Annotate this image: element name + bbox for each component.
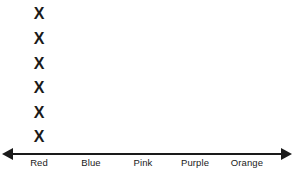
x-axis-tick-label: Purple: [181, 157, 209, 169]
axis-line: [12, 153, 282, 155]
data-point-mark: X: [31, 52, 47, 77]
dot-plot-chart: XXXXXX RedBluePinkPurpleOrange: [0, 0, 294, 178]
data-point-stack: XXXXXX: [31, 2, 47, 150]
mark-stacks-layer: XXXXXX: [0, 0, 294, 150]
x-axis-tick-labels: RedBluePinkPurpleOrange: [0, 157, 294, 173]
data-point-mark: X: [31, 76, 47, 101]
x-axis-tick-label: Blue: [81, 157, 100, 169]
x-axis-tick-label: Red: [30, 157, 48, 169]
x-axis-tick-label: Orange: [231, 157, 263, 169]
data-point-mark: X: [31, 27, 47, 52]
x-axis-tick-label: Pink: [134, 157, 153, 169]
data-point-mark: X: [31, 101, 47, 126]
data-point-mark: X: [31, 2, 47, 27]
